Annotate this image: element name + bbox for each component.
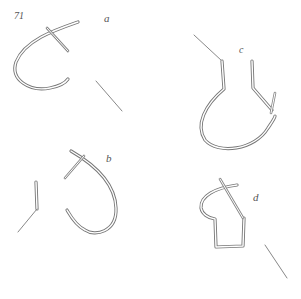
panel-d-drawing (201, 179, 287, 278)
panel-a-drawing (15, 22, 122, 111)
stitch-diagram (0, 0, 301, 299)
panel-c-drawing (194, 35, 275, 149)
panel-b-drawing (18, 151, 116, 233)
